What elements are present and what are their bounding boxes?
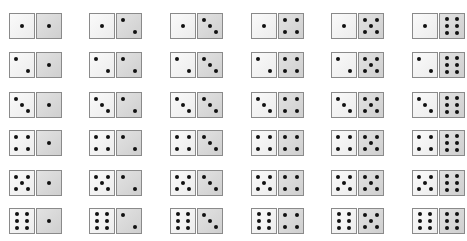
pip	[202, 213, 206, 217]
die-face-five-icon	[358, 52, 384, 78]
pip	[363, 109, 367, 113]
die-face-two-icon	[116, 92, 142, 118]
dice-pair	[9, 208, 63, 234]
pip	[445, 219, 449, 223]
pip	[187, 175, 191, 179]
pip	[202, 175, 206, 179]
pip	[268, 147, 272, 151]
dice-pair	[331, 130, 385, 156]
pip	[283, 175, 287, 179]
pip	[375, 213, 379, 217]
die-face-one-icon	[36, 208, 62, 234]
pip	[445, 212, 449, 216]
pip	[455, 212, 459, 216]
pip	[429, 109, 433, 113]
pip	[187, 135, 191, 139]
pip	[175, 175, 179, 179]
die-face-two-icon	[170, 52, 196, 78]
pip	[100, 24, 104, 28]
dice-pair	[89, 13, 143, 39]
die-face-four-icon	[170, 130, 196, 156]
pip	[47, 181, 51, 185]
pip	[262, 103, 266, 107]
die-face-three-icon	[197, 170, 223, 196]
pip	[342, 103, 346, 107]
pip	[363, 147, 367, 151]
pip	[445, 148, 449, 152]
pip	[175, 135, 179, 139]
pip	[295, 30, 299, 34]
die-face-six-icon	[331, 208, 357, 234]
pip	[202, 135, 206, 139]
pip	[121, 57, 125, 61]
die-face-one-icon	[331, 13, 357, 39]
pip	[363, 135, 367, 139]
pip	[455, 70, 459, 74]
die-face-six-icon	[170, 208, 196, 234]
dice-pair	[251, 13, 305, 39]
pip	[133, 147, 137, 151]
pip	[176, 219, 180, 223]
pip	[100, 103, 104, 107]
die-face-three-icon	[197, 130, 223, 156]
dice-pair	[9, 52, 63, 78]
pip	[106, 135, 110, 139]
die-face-one-icon	[36, 13, 62, 39]
die-face-three-icon	[197, 52, 223, 78]
pip	[336, 57, 340, 61]
pip	[455, 188, 459, 192]
die-face-five-icon	[251, 170, 277, 196]
pip	[208, 103, 212, 107]
pip	[283, 57, 287, 61]
pip	[283, 213, 287, 217]
dice-pair	[89, 130, 143, 156]
pip	[133, 225, 137, 229]
pip	[208, 181, 212, 185]
pip	[94, 135, 98, 139]
pip	[256, 135, 260, 139]
pip	[95, 226, 99, 230]
pip	[106, 147, 110, 151]
dice-pair	[251, 52, 305, 78]
pip	[417, 135, 421, 139]
pip	[337, 219, 341, 223]
pip	[445, 110, 449, 114]
pip	[187, 187, 191, 191]
pip	[257, 219, 261, 223]
pip	[20, 24, 24, 28]
die-face-five-icon	[9, 170, 35, 196]
pip	[187, 147, 191, 151]
pip	[256, 147, 260, 151]
pip	[208, 24, 212, 28]
pip	[445, 24, 449, 28]
die-face-four-icon	[278, 13, 304, 39]
pip	[202, 97, 206, 101]
pip	[348, 147, 352, 151]
pip	[429, 187, 433, 191]
pip	[295, 97, 299, 101]
pip	[445, 56, 449, 60]
die-face-five-icon	[358, 13, 384, 39]
pip	[283, 18, 287, 22]
pip	[423, 103, 427, 107]
dice-pair	[89, 170, 143, 196]
pip	[268, 135, 272, 139]
pip	[363, 213, 367, 217]
pip	[375, 147, 379, 151]
pip	[256, 175, 260, 179]
pip	[342, 181, 346, 185]
pip	[14, 135, 18, 139]
pip	[445, 31, 449, 35]
die-face-six-icon	[439, 170, 465, 196]
pip	[429, 69, 433, 73]
pip	[342, 24, 346, 28]
pip	[417, 97, 421, 101]
pip	[337, 212, 341, 216]
die-face-three-icon	[197, 13, 223, 39]
pip	[445, 96, 449, 100]
pip	[369, 103, 373, 107]
die-face-two-icon	[116, 52, 142, 78]
pip	[175, 57, 179, 61]
pip	[262, 181, 266, 185]
pip	[445, 70, 449, 74]
